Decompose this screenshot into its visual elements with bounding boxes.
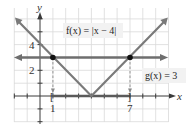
x-axis-arrow-icon	[169, 94, 176, 99]
y-axis-label: y	[36, 1, 42, 13]
x-axis-label: x	[176, 90, 182, 102]
y-axis-arrow-icon	[38, 12, 43, 19]
intersection-point-1	[50, 55, 56, 61]
intersection-point-7	[127, 55, 133, 61]
right-bracket: ]	[128, 90, 132, 102]
g-right-arrow-icon	[160, 54, 168, 61]
g-left-arrow-icon	[14, 54, 22, 61]
left-bracket: [	[50, 90, 54, 102]
g-equation-label: g(x) = 3	[145, 70, 177, 82]
x-tick-label-7: 7	[127, 102, 133, 114]
f-equation-label: f(x) = |x − 4|	[66, 25, 116, 37]
x-tick-label-1: 1	[50, 102, 56, 114]
y-tick-label-2: 2	[29, 64, 35, 76]
graph: [ ] y x 4 2 1 7 f(x) = |x − 4| g(x) = 3	[0, 0, 190, 134]
y-tick-label-4: 4	[29, 39, 35, 51]
